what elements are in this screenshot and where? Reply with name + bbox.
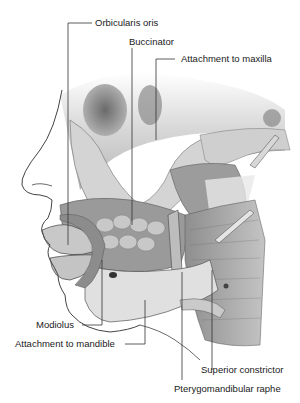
label-orbicularis-oris: Orbicularis oris (95, 18, 158, 28)
label-attachment-to-maxilla: Attachment to maxilla (181, 54, 272, 64)
label-buccinator: Buccinator (129, 37, 174, 47)
anatomy-illustration: Orbicularis oris Buccinator Attachment t… (0, 0, 300, 403)
label-modiolus: Modiolus (36, 320, 74, 330)
label-attachment-to-mandible: Attachment to mandible (15, 339, 115, 349)
label-pterygomandibular-raphe: Pterygomandibular raphe (174, 384, 281, 394)
label-superior-constrictor: Superior constrictor (201, 365, 283, 375)
